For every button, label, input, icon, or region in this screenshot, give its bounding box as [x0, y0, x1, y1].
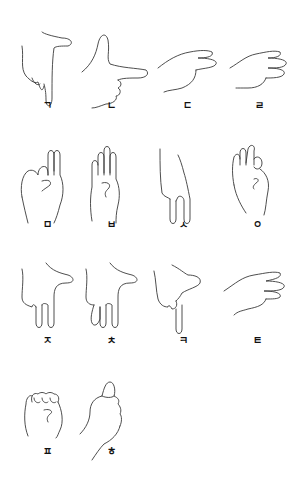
sign-ieung: ㅇ [222, 135, 292, 245]
letter-label: ㅇ [222, 219, 292, 231]
sign-mieum: ㅁ [12, 135, 82, 245]
sign-tieut: ㅌ [222, 253, 292, 363]
hand-chieut-icon [76, 253, 146, 343]
sign-siot: ㅅ [148, 135, 218, 245]
sign-hieut: ㅎ [76, 370, 146, 480]
hand-bieup-icon [76, 135, 146, 225]
sign-pieup: ㅍ [12, 370, 82, 480]
letter-label: ㅎ [76, 446, 146, 458]
sign-bieup: ㅂ [76, 135, 146, 245]
hand-giyeok-icon [12, 18, 82, 108]
hand-digeut-icon [152, 18, 222, 108]
letter-label: ㅍ [12, 446, 82, 458]
letter-label: ㄴ [76, 100, 146, 112]
sign-chieut: ㅊ [76, 253, 146, 363]
hand-rieul-icon [224, 18, 294, 108]
letter-label: ㅈ [12, 335, 82, 347]
sign-digeut: ㄷ [152, 18, 222, 128]
letter-label: ㅅ [148, 219, 218, 231]
sign-kieuk: ㅋ [148, 253, 218, 363]
letter-label: ㅁ [12, 219, 82, 231]
letter-label: ㄷ [152, 100, 222, 112]
sign-nieun: ㄴ [76, 18, 146, 128]
hand-nieun-icon [76, 18, 146, 108]
letter-label: ㅂ [76, 219, 146, 231]
hand-mieum-icon [12, 135, 82, 225]
hand-siot-icon [148, 135, 218, 225]
hand-tieut-icon [222, 253, 292, 343]
hand-jieut-icon [12, 253, 82, 343]
hand-ieung-icon [222, 135, 292, 225]
letter-label: ㄹ [224, 100, 294, 112]
sign-jieut: ㅈ [12, 253, 82, 363]
letter-label: ㅋ [148, 335, 218, 347]
sign-rieul: ㄹ [224, 18, 294, 128]
letter-label: ㅌ [222, 335, 292, 347]
letter-label: ㄱ [12, 100, 82, 112]
hand-kieuk-icon [148, 253, 218, 343]
sign-giyeok: ㄱ [12, 18, 82, 128]
letter-label: ㅊ [76, 335, 146, 347]
